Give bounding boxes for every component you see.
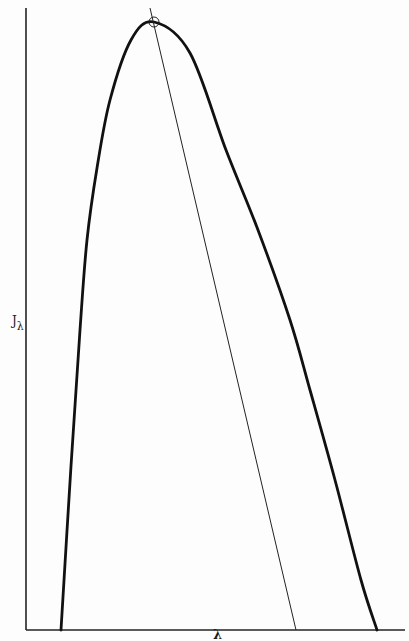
y-axis-label-subscript: λ [17,320,24,333]
j-lambda-curve [61,22,377,630]
y-axis-label: Jλ [12,314,24,331]
chart-plot [0,0,409,641]
peak-bisector-line [150,8,296,630]
x-axis-label: λ [213,627,222,641]
